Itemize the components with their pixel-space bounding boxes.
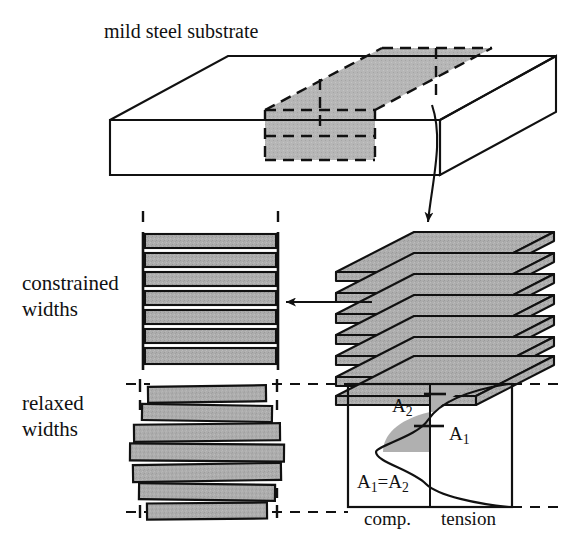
constrained-layer — [145, 291, 276, 305]
relaxed-layer — [130, 443, 284, 461]
relaxed-widths-group — [130, 385, 284, 519]
area-a2-symbol: A — [392, 395, 406, 416]
area-equality-operator: =A — [378, 471, 402, 492]
area-equality-left-subscript: 1 — [371, 480, 378, 495]
figure-canvas: mild steel substrate constrained widths … — [0, 0, 588, 547]
constrained-widths-group — [143, 211, 278, 370]
layered-stack-3d — [336, 232, 554, 405]
compression-axis-label: comp. — [364, 508, 411, 530]
constrained-layer — [145, 253, 276, 267]
relaxed-widths-label-line1: relaxed — [22, 391, 84, 416]
callout-curved-arrow — [428, 105, 437, 222]
constrained-layer — [145, 348, 276, 364]
relaxed-layer — [134, 423, 280, 442]
constrained-layer — [145, 329, 276, 343]
substrate-right-face — [440, 56, 556, 175]
area-equality-label: A1=A2 — [357, 471, 409, 496]
constrained-layer — [145, 310, 276, 324]
tension-axis-label: tension — [441, 508, 496, 530]
area-equality-left: A — [357, 471, 371, 492]
constrained-widths-label-line1: constrained — [22, 271, 119, 296]
relaxed-layer — [139, 483, 275, 501]
relaxed-layer — [148, 385, 266, 403]
area-a2-subscript: 2 — [406, 404, 413, 419]
area-a2-label: A2 — [392, 395, 413, 420]
relaxed-layer — [133, 463, 281, 482]
relaxed-widths-label-line2: widths — [22, 417, 78, 442]
substrate-block — [110, 48, 556, 175]
substrate-label: mild steel substrate — [104, 20, 258, 43]
area-equality-right-subscript: 2 — [402, 480, 409, 495]
constrained-layer — [145, 272, 276, 286]
substrate-shaded-top — [265, 48, 492, 110]
area-a1-symbol: A — [449, 423, 463, 444]
relaxed-layer — [142, 404, 272, 422]
area-a1-subscript: 1 — [463, 432, 470, 447]
constrained-widths-label-line2: widths — [22, 297, 78, 322]
relaxed-layer — [147, 502, 267, 519]
area-a1-label: A1 — [449, 423, 470, 448]
constrained-layer — [145, 234, 276, 248]
